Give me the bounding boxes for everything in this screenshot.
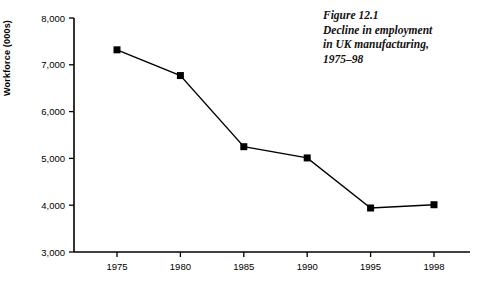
x-tick-label: 1990 — [297, 261, 318, 272]
data-point-marker — [114, 46, 121, 53]
series-line — [117, 50, 434, 208]
y-tick-label: 3,000 — [41, 247, 65, 258]
data-series — [117, 50, 434, 208]
y-tick-label: 4,000 — [41, 200, 65, 211]
data-point-marker — [240, 143, 247, 150]
data-point-marker — [431, 201, 438, 208]
data-markers — [114, 46, 438, 211]
y-tick-label: 5,000 — [41, 153, 65, 164]
data-point-marker — [177, 72, 184, 79]
line-chart: 3,0004,0005,0006,0007,0008,000 197519801… — [0, 0, 497, 281]
x-tick-label: 1998 — [423, 261, 444, 272]
x-tick-label: 1980 — [170, 261, 191, 272]
x-tick-label: 1985 — [233, 261, 254, 272]
x-tick-group: 197519801985199019951998 — [106, 252, 444, 272]
y-tick-group: 3,0004,0005,0006,0007,0008,000 — [41, 13, 74, 258]
chart-axes — [74, 18, 470, 252]
y-tick-label: 7,000 — [41, 59, 65, 70]
x-tick-label: 1995 — [360, 261, 381, 272]
data-point-marker — [304, 154, 311, 161]
x-tick-label: 1975 — [106, 261, 127, 272]
figure-container: Figure 12.1 Decline in employment in UK … — [0, 0, 497, 281]
data-point-marker — [367, 205, 374, 212]
y-tick-label: 6,000 — [41, 106, 65, 117]
y-tick-label: 8,000 — [41, 13, 65, 24]
